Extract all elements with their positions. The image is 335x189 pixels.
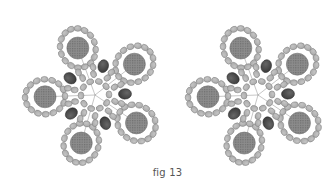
seed-bead <box>96 136 103 144</box>
seed-bead <box>242 83 251 92</box>
seed-bead <box>259 136 266 144</box>
seed-bead <box>79 83 88 92</box>
seed-bead <box>224 134 232 143</box>
seed-bead <box>91 112 99 121</box>
seed-bead <box>291 101 299 108</box>
large-bead <box>197 86 219 108</box>
seed-bead <box>234 98 241 104</box>
seed-bead <box>127 79 135 86</box>
large-bead <box>125 112 147 134</box>
seed-bead <box>241 92 247 99</box>
large-bead <box>34 86 56 108</box>
seed-bead <box>65 101 72 107</box>
seed-bead <box>64 85 71 91</box>
seed-bead <box>315 124 322 132</box>
seed-bead <box>225 92 231 99</box>
seed-bead <box>150 61 157 69</box>
large-bead <box>230 37 252 59</box>
seed-bead <box>220 43 226 50</box>
seed-bead <box>57 43 63 50</box>
seed-bead <box>79 159 87 166</box>
seed-bead <box>78 92 84 99</box>
seed-bead <box>152 116 159 124</box>
seed-bead <box>135 102 143 109</box>
seed-bead <box>242 99 251 108</box>
seed-bead <box>250 105 259 113</box>
seed-bead <box>95 78 104 86</box>
seed-bead <box>106 91 112 98</box>
seed-bead <box>134 42 142 49</box>
seed-bead <box>71 87 78 93</box>
seed-bead <box>297 42 305 49</box>
seed-bead <box>79 99 88 108</box>
large-bead <box>288 112 310 134</box>
seed-bead <box>41 76 48 82</box>
seed-bead <box>258 104 267 112</box>
seed-bead <box>61 134 69 143</box>
seed-bead <box>62 92 68 99</box>
seed-bead <box>256 46 262 53</box>
seed-bead <box>93 46 99 53</box>
seed-bead <box>297 78 305 86</box>
seed-bead <box>137 138 145 145</box>
seed-bead <box>269 91 275 98</box>
seed-bead <box>102 82 111 91</box>
seed-bead <box>205 111 212 117</box>
seed-bead <box>253 70 261 79</box>
seed-bead <box>275 59 282 67</box>
seed-bead <box>313 61 320 69</box>
seed-bead <box>128 101 136 108</box>
seed-bead <box>254 112 262 121</box>
star-motif-diagram <box>0 0 335 189</box>
seed-bead <box>265 98 274 107</box>
seed-bead <box>298 102 306 109</box>
seed-bead <box>94 144 102 153</box>
seed-bead <box>237 25 244 31</box>
seed-bead <box>102 98 111 107</box>
seed-bead <box>204 76 211 82</box>
seed-bead <box>60 142 67 150</box>
right-star-motif <box>185 25 322 166</box>
seed-bead <box>130 137 138 144</box>
seed-bead <box>242 159 250 166</box>
large-bead <box>70 132 92 154</box>
seed-bead <box>74 25 81 31</box>
seed-bead <box>114 121 121 129</box>
seed-bead <box>86 78 95 86</box>
seed-bead <box>277 121 284 129</box>
seed-bead <box>258 78 267 86</box>
large-bead <box>286 53 308 75</box>
large-bead <box>123 53 145 75</box>
seed-bead <box>134 78 142 86</box>
large-bead <box>67 37 89 59</box>
seed-bead <box>42 111 49 117</box>
accent-bead <box>281 88 294 99</box>
seed-bead <box>71 98 78 104</box>
seed-bead <box>290 79 298 86</box>
seed-bead <box>185 94 191 101</box>
large-bead <box>233 132 255 154</box>
seed-bead <box>126 43 134 51</box>
seed-bead <box>293 137 301 144</box>
seed-bead <box>90 70 98 79</box>
seed-bead <box>223 142 230 150</box>
accent-bead <box>118 88 131 99</box>
seed-bead <box>112 59 119 67</box>
seed-bead <box>95 104 104 112</box>
seed-bead <box>257 144 265 153</box>
seed-bead <box>228 101 235 107</box>
seed-bead <box>234 87 241 93</box>
seed-bead <box>300 138 308 145</box>
seed-bead <box>289 43 297 51</box>
seed-bead <box>152 124 159 132</box>
left-star-motif <box>22 25 159 166</box>
seed-bead <box>227 85 234 91</box>
seed-bead <box>87 105 96 113</box>
seed-bead <box>22 94 28 101</box>
seed-bead <box>315 116 322 124</box>
seed-bead <box>265 82 274 91</box>
figure-caption: fig 13 <box>0 167 335 178</box>
seed-bead <box>249 78 258 86</box>
